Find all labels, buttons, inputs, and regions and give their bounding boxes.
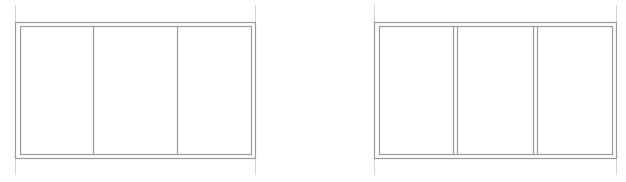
inner-frame [380,27,613,155]
outer-frame [375,23,617,159]
outer-frame [16,23,256,159]
inner-frame [21,27,252,155]
diagram-canvas [0,0,626,182]
window-elevations-drawing [0,0,626,182]
elevation-right [375,5,617,175]
elevation-left [16,5,256,175]
